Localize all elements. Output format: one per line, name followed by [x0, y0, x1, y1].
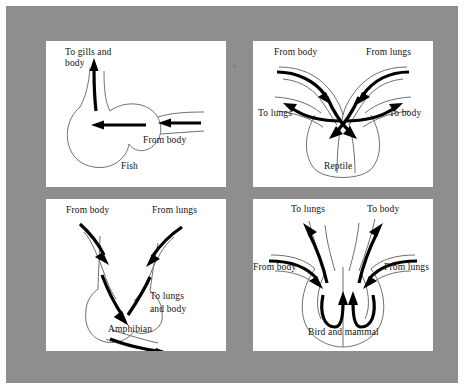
fish-outflow-arrow	[90, 58, 99, 111]
panel-amphibian: From body From lungs To lungs and body A…	[46, 199, 226, 351]
label-from-body: From body	[66, 205, 109, 217]
figure-canvas: To gills and body From body Fish	[0, 0, 464, 389]
label-from-lungs: From lungs	[384, 262, 429, 274]
label-to-lungs: To lungs	[291, 204, 325, 216]
label-from-body: From body	[253, 262, 296, 274]
label-to-body: To body	[389, 108, 421, 120]
bird-left-ventricle-loop	[322, 291, 348, 327]
caption-reptile: Reptile	[324, 161, 353, 171]
bird-to-body-arrow	[359, 223, 383, 283]
label-to-lungs-and-body-line2: and body	[150, 304, 186, 316]
caption-bird-and-mammal: Bird and mammal	[308, 327, 379, 337]
fish-heart-outline	[67, 68, 204, 168]
label-from-body: From body	[274, 47, 317, 59]
label-to-lungs: To lungs	[258, 108, 292, 120]
caption-amphibian: Amphibian	[108, 324, 152, 334]
reptile-from-body-arrow	[277, 72, 332, 105]
amphibian-from-body-arrow	[80, 224, 109, 265]
label-to-lungs-and-body-line1: To lungs	[150, 291, 184, 303]
amphibian-inner-right-stream	[114, 277, 150, 325]
bird-to-lungs-arrow	[303, 223, 327, 283]
figure-frame: To gills and body From body Fish	[6, 6, 458, 383]
fish-inflow-arrow-outer	[158, 119, 201, 128]
label-to-gills-and-body-line2: body	[65, 58, 85, 70]
label-from-lungs: From lungs	[152, 205, 197, 217]
label-from-lungs: From lungs	[366, 47, 411, 59]
label-from-body: From body	[143, 135, 186, 147]
fish-inflow-arrow-inner	[91, 121, 146, 130]
label-to-body: To body	[367, 204, 399, 216]
reptile-from-lungs-arrow	[356, 72, 409, 105]
amphibian-outflow-arrow	[110, 339, 170, 351]
panel-bird-and-mammal: To lungs To body From body From lungs Bi…	[253, 199, 433, 351]
label-to-gills-and-body-line1: To gills and	[65, 47, 112, 59]
reptile-inner-cross-right	[329, 97, 359, 139]
speck-artifact	[233, 65, 236, 68]
caption-fish: Fish	[121, 161, 138, 171]
panel-fish: To gills and body From body Fish	[46, 41, 226, 187]
panel-reptile: From body From lungs To lungs To body Re…	[253, 41, 433, 187]
bird-right-ventricle-loop	[348, 291, 374, 327]
